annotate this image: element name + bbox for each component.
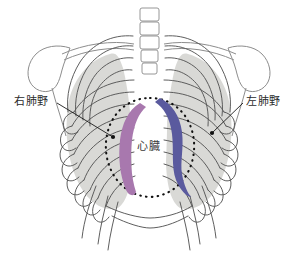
label-left-lung-field: 左肺野 xyxy=(246,96,281,107)
left-lung-leader-dot xyxy=(210,131,214,135)
right-lung-leader-dot xyxy=(111,135,115,139)
chest-xray-illustration xyxy=(0,0,298,266)
vertebral-column xyxy=(140,8,159,74)
chest-anatomy-figure: 右肺野 左肺野 心臓 xyxy=(0,0,298,266)
label-heart: 心臓 xyxy=(137,141,160,152)
label-right-lung-field: 右肺野 xyxy=(14,96,49,107)
